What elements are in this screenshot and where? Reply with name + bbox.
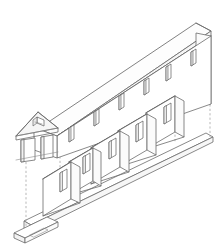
annex-doorway xyxy=(83,153,90,174)
axonometric-illustration xyxy=(0,0,223,248)
annex-doorway xyxy=(60,169,67,192)
wall-window xyxy=(144,78,149,95)
annex-doorway xyxy=(136,121,143,142)
annex-5-return xyxy=(175,96,184,137)
annex-4-return xyxy=(147,114,156,155)
annex-3-return xyxy=(120,131,129,172)
wall-window xyxy=(94,109,99,126)
annex-doorway xyxy=(109,138,116,159)
wall-window xyxy=(69,125,74,142)
annex-1-return xyxy=(71,162,80,203)
wall-window xyxy=(191,49,196,66)
drawing-canvas: Axonometric line drawing Long gabled bui… xyxy=(0,0,223,248)
porch-post-2 xyxy=(41,137,44,159)
wall-window xyxy=(166,64,171,81)
annex-doorway xyxy=(164,103,171,124)
annex-2-return xyxy=(93,148,101,186)
wall-window xyxy=(119,93,124,110)
